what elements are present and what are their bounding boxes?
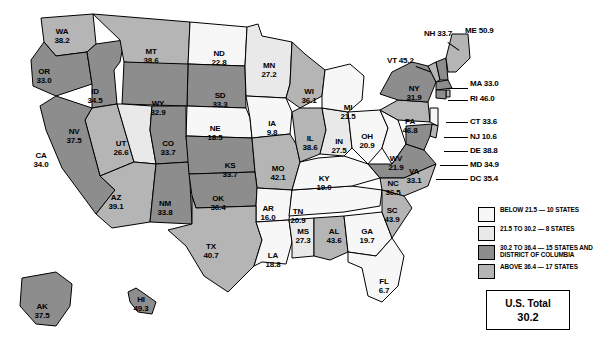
state-shape-mn <box>245 24 292 98</box>
state-shape-mi <box>322 64 364 112</box>
legend-item: 30.2 TO 36.4 — 15 STATES AND DISTRICT OF… <box>478 244 602 260</box>
legend-swatch <box>478 264 495 279</box>
legend-label: ABOVE 36.4 — 17 STATES <box>500 263 578 270</box>
state-shape-sd <box>187 64 246 108</box>
us-total-value: 30.2 <box>517 311 538 323</box>
state-shape-nd <box>188 22 247 66</box>
legend-item: ABOVE 36.4 — 17 STATES <box>478 263 602 279</box>
legend-label: 21.5 TO 30.2 — 8 STATES <box>500 225 574 232</box>
state-shape-me <box>446 34 470 72</box>
state-shape-ny <box>380 62 436 102</box>
map-legend: BELOW 21.5 — 10 STATES21.5 TO 30.2 — 8 S… <box>478 206 602 282</box>
legend-swatch <box>478 245 495 260</box>
state-shape-nj <box>430 108 438 126</box>
us-choropleth-map: WA38.2OR33.0ID34.5MT38.6ND22.8MN27.2WI36… <box>0 0 609 351</box>
state-shape-ok <box>189 172 257 208</box>
leader-line-ct <box>446 122 468 123</box>
state-shape-tn <box>289 186 382 216</box>
legend-label: 30.2 TO 36.4 — 15 STATES AND DISTRICT OF… <box>500 244 602 259</box>
leader-line-ri <box>448 100 468 101</box>
state-shape-id <box>87 40 124 108</box>
legend-item: BELOW 21.5 — 10 STATES <box>478 206 602 222</box>
state-shape-ri <box>446 90 450 97</box>
state-shape-nm <box>150 162 192 224</box>
us-total-box: U.S. Total 30.2 <box>486 290 570 330</box>
state-shape-wi <box>286 42 325 108</box>
state-shape-hi <box>128 288 156 314</box>
state-shape-oh <box>348 110 388 164</box>
state-shape-mo <box>252 134 300 190</box>
leader-line-nj <box>444 137 468 138</box>
state-shape-ct <box>436 90 446 99</box>
state-shape-ar <box>256 188 292 222</box>
leader-line-de <box>444 151 468 152</box>
legend-swatch <box>478 226 495 241</box>
state-shape-ks <box>186 136 255 174</box>
legend-label: BELOW 21.5 — 10 STATES <box>500 206 579 213</box>
state-shape-ia <box>246 96 292 138</box>
state-shape-wy <box>122 62 188 106</box>
leader-line-md <box>440 165 468 166</box>
leader-line-ma <box>448 88 468 89</box>
state-shape-co <box>150 106 189 164</box>
state-shape-ne <box>186 106 252 138</box>
state-shape-ms <box>289 218 314 258</box>
state-shape-al <box>314 216 348 260</box>
us-total-label: U.S. Total <box>505 298 550 309</box>
state-shape-ak <box>20 272 72 326</box>
legend-item: 21.5 TO 30.2 — 8 STATES <box>478 225 602 241</box>
leader-line-dc <box>436 179 468 180</box>
legend-swatch <box>478 207 495 222</box>
